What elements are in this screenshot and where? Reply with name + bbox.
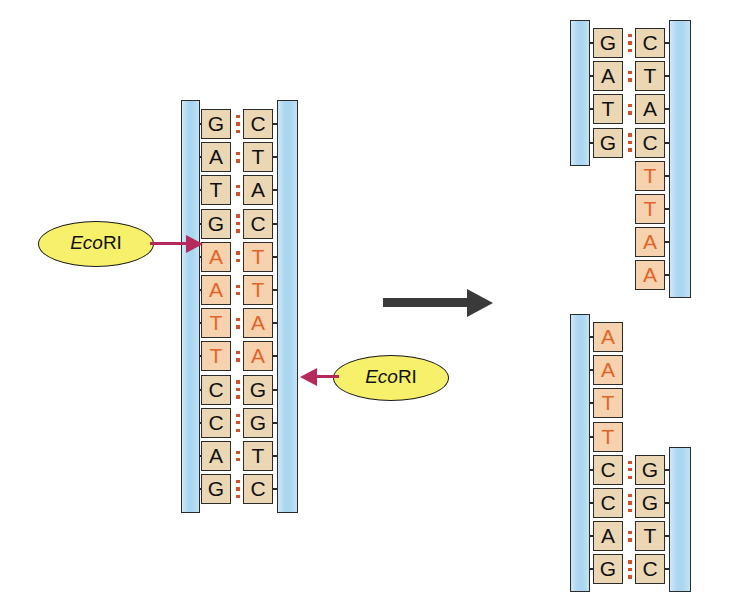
base-connector [273, 289, 277, 291]
base-right-4: T [635, 161, 665, 191]
base-left-3: G [593, 128, 623, 158]
base-connector [273, 256, 277, 258]
base-left-4: A [201, 242, 231, 272]
hydrogen-bond-dots [625, 28, 635, 58]
hydrogen-bond-dots [625, 61, 635, 91]
reaction-arrow-head [467, 289, 493, 317]
base-connector [665, 175, 669, 177]
base-connector [273, 488, 277, 490]
hydrogen-bond-dots [233, 308, 243, 338]
ecori-arrow-head-top [186, 235, 203, 253]
base-left-8: C [201, 375, 231, 405]
right-backbone-lower-fragment [669, 447, 691, 593]
base-left-0: G [593, 28, 623, 58]
hydrogen-bond-dots [233, 142, 243, 172]
base-connector [273, 156, 277, 158]
base-right-4: G [635, 455, 665, 485]
base-left-2: T [593, 388, 623, 418]
base-right-4: T [243, 242, 273, 272]
base-right-1: T [243, 142, 273, 172]
hydrogen-bond-dots [233, 242, 243, 272]
base-left-6: T [201, 308, 231, 338]
base-left-7: T [201, 341, 231, 371]
hydrogen-bond-dots [233, 209, 243, 239]
base-connector [273, 389, 277, 391]
base-left-11: G [201, 474, 231, 504]
hydrogen-bond-dots [625, 488, 635, 518]
base-connector [273, 455, 277, 457]
hydrogen-bond-dots [233, 408, 243, 438]
base-left-3: G [201, 209, 231, 239]
base-connector [665, 241, 669, 243]
base-right-7: A [635, 260, 665, 290]
base-right-5: G [635, 488, 665, 518]
hydrogen-bond-dots [233, 109, 243, 139]
base-connector [665, 274, 669, 276]
base-left-5: A [201, 275, 231, 305]
base-right-6: A [635, 227, 665, 257]
base-left-2: T [593, 94, 623, 124]
base-right-8: G [243, 375, 273, 405]
hydrogen-bond-dots [625, 128, 635, 158]
base-right-3: C [243, 209, 273, 239]
base-right-3: C [635, 128, 665, 158]
ecori-callout-top[interactable]: EcoRI [38, 221, 154, 267]
base-right-10: T [243, 441, 273, 471]
base-right-7: A [243, 341, 273, 371]
base-right-6: A [243, 308, 273, 338]
base-connector [273, 123, 277, 125]
base-connector [273, 355, 277, 357]
ecori-callout-bottom[interactable]: EcoRI [333, 355, 449, 401]
left-backbone-substrate [181, 100, 200, 513]
base-connector [665, 142, 669, 144]
base-right-7: C [635, 554, 665, 584]
hydrogen-bond-dots [625, 521, 635, 551]
base-right-5: T [243, 275, 273, 305]
base-left-1: A [593, 61, 623, 91]
hydrogen-bond-dots [233, 375, 243, 405]
hydrogen-bond-dots [233, 341, 243, 371]
base-right-9: G [243, 408, 273, 438]
hydrogen-bond-dots [233, 441, 243, 471]
hydrogen-bond-dots [625, 455, 635, 485]
base-right-0: C [243, 109, 273, 139]
base-right-2: A [635, 94, 665, 124]
base-right-0: C [635, 28, 665, 58]
hydrogen-bond-dots [625, 94, 635, 124]
base-right-1: T [635, 61, 665, 91]
base-connector [665, 502, 669, 504]
base-left-0: G [201, 109, 231, 139]
base-left-4: C [593, 455, 623, 485]
hydrogen-bond-dots [233, 474, 243, 504]
base-connector [665, 469, 669, 471]
base-left-10: A [201, 441, 231, 471]
base-connector [273, 322, 277, 324]
base-right-11: C [243, 474, 273, 504]
ecori-label-bottom: EcoRI [334, 356, 448, 397]
base-left-0: A [593, 322, 623, 352]
base-connector [273, 223, 277, 225]
base-right-5: T [635, 194, 665, 224]
base-connector [665, 108, 669, 110]
hydrogen-bond-dots [233, 175, 243, 205]
hydrogen-bond-dots [625, 554, 635, 584]
right-backbone-upper-fragment [669, 20, 691, 298]
right-backbone-substrate [277, 100, 298, 513]
hydrogen-bond-dots [233, 275, 243, 305]
ecori-label-top: EcoRI [39, 222, 153, 263]
base-connector [273, 189, 277, 191]
base-right-6: T [635, 521, 665, 551]
base-left-1: A [201, 142, 231, 172]
base-right-2: A [243, 175, 273, 205]
base-left-2: T [201, 175, 231, 205]
base-left-3: T [593, 422, 623, 452]
ecori-arrow-line-bottom [317, 375, 339, 378]
base-left-6: A [593, 521, 623, 551]
ecori-arrow-line-top [150, 242, 188, 245]
base-left-1: A [593, 355, 623, 385]
reaction-arrow-shaft [383, 298, 469, 307]
base-connector [665, 75, 669, 77]
base-connector [273, 422, 277, 424]
figure-canvas: GCATTAGCATATTATACGCGATGC EcoRI EcoRI GCA… [0, 0, 755, 609]
base-left-5: C [593, 488, 623, 518]
